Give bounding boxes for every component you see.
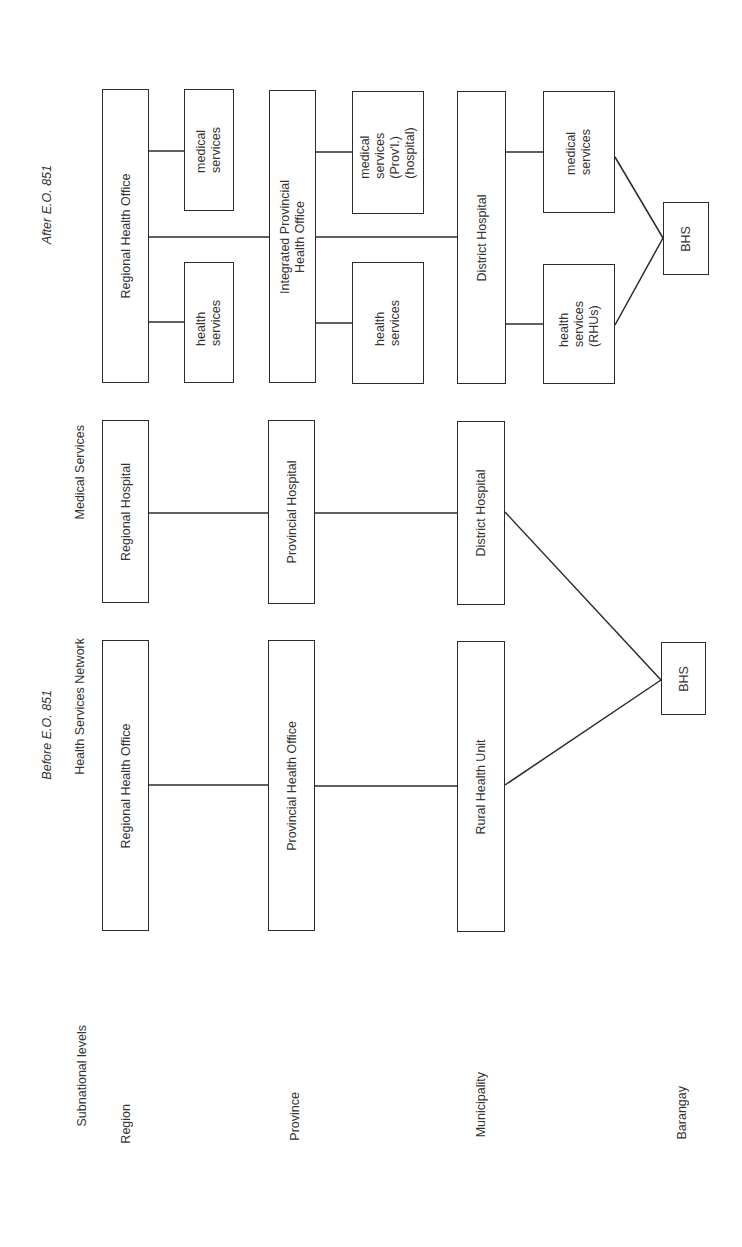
box-label: health services (RHUs): [557, 301, 602, 347]
box-label: medical services: [564, 129, 594, 175]
after-region-medical-services: medical services: [184, 89, 234, 211]
before-rural-health-unit: Rural Health Unit: [457, 641, 505, 932]
box-label: Regional Health Office: [118, 174, 133, 299]
box-label: Regional Health Office: [118, 723, 133, 848]
box-label: medical services: [194, 127, 224, 173]
box-label: health services: [373, 300, 403, 346]
after-district-medical-services: medical services: [543, 91, 615, 213]
box-label: BHS: [676, 666, 691, 692]
before-provincial-health-office: Provincial Health Office: [268, 640, 315, 931]
box-label: District Hospital: [474, 194, 489, 281]
after-district-hospital: District Hospital: [457, 91, 506, 384]
level-municipality: Municipality: [474, 1072, 489, 1137]
after-regional-health-office: Regional Health Office: [102, 89, 149, 383]
subnational-levels-heading: Subnational levels: [75, 1025, 90, 1126]
box-label: medical services (Prov'l.) (hospital): [358, 127, 418, 178]
after-integrated-provincial-health-office: Integrated Provincial Health Office: [269, 90, 316, 383]
after-heading: After E.O. 851: [40, 165, 55, 244]
after-district-health-services-rhus: health services (RHUs): [543, 264, 615, 384]
level-province: Province: [288, 1092, 303, 1141]
after-region-health-services: health services: [184, 262, 234, 383]
level-barangay: Barangay: [675, 1086, 690, 1140]
before-heading: Before E.O. 851: [40, 690, 55, 780]
box-label: Provincial Health Office: [284, 721, 299, 851]
after-bhs: BHS: [663, 202, 709, 275]
box-label: Provincial Hospital: [284, 461, 299, 564]
box-label: Integrated Provincial Health Office: [278, 180, 308, 294]
before-regional-hospital: Regional Hospital: [102, 420, 149, 603]
level-region: Region: [119, 1104, 134, 1144]
health-network-heading: Health Services Network: [73, 638, 88, 775]
after-province-medical-services: medical services (Prov'l.) (hospital): [352, 91, 424, 214]
medical-services-heading: Medical Services: [73, 425, 88, 519]
before-regional-health-office: Regional Health Office: [102, 640, 149, 931]
box-label: Rural Health Unit: [474, 739, 489, 834]
before-bhs: BHS: [661, 642, 706, 715]
after-province-health-services: health services: [352, 262, 424, 384]
box-label: Regional Hospital: [118, 463, 133, 561]
before-provincial-hospital: Provincial Hospital: [268, 420, 315, 604]
box-label: BHS: [679, 226, 694, 252]
before-district-hospital: District Hospital: [457, 421, 505, 605]
box-label: health services: [194, 300, 224, 346]
box-label: District Hospital: [474, 470, 489, 557]
